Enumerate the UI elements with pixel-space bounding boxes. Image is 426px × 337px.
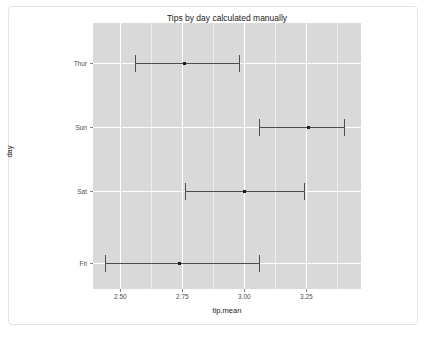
x-tick-mark bbox=[244, 289, 245, 292]
plot-panel bbox=[93, 23, 361, 289]
errorbar-cap bbox=[259, 119, 260, 136]
y-tick-mark bbox=[90, 63, 93, 64]
errorbar-line bbox=[259, 127, 343, 128]
x-tick-label: 2.50 bbox=[114, 293, 127, 300]
data-point-marker bbox=[178, 262, 181, 265]
errorbar-cap bbox=[344, 119, 345, 136]
errorbar-line bbox=[135, 63, 239, 64]
x-tick-mark bbox=[120, 289, 121, 292]
errorbar-cap bbox=[105, 255, 106, 272]
x-axis-title: tip.mean bbox=[93, 306, 361, 315]
errorbar-cap bbox=[135, 55, 136, 72]
y-tick-mark bbox=[90, 191, 93, 192]
errorbar-cap bbox=[239, 55, 240, 72]
errorbar-line bbox=[105, 263, 259, 264]
data-point-marker bbox=[183, 62, 186, 65]
y-tick-label: Fri bbox=[65, 260, 87, 267]
errorbar-cap bbox=[259, 255, 260, 272]
x-tick-mark bbox=[306, 289, 307, 292]
x-tick-label: 3.00 bbox=[238, 293, 251, 300]
errorbar-cap bbox=[304, 183, 305, 200]
chart-title: Tips by day calculated manually bbox=[93, 13, 361, 23]
y-axis-title: day bbox=[5, 145, 14, 157]
x-tick-label: 3.25 bbox=[300, 293, 313, 300]
y-tick-label: Sun bbox=[65, 124, 87, 131]
y-tick-mark bbox=[90, 127, 93, 128]
data-point-marker bbox=[243, 190, 246, 193]
errorbar-cap bbox=[185, 183, 186, 200]
y-tick-label: Thur bbox=[65, 60, 87, 67]
figure-card: Tips by day calculated manually 2.502.75… bbox=[8, 6, 418, 325]
y-tick-label: Sat bbox=[65, 188, 87, 195]
data-point-marker bbox=[307, 126, 310, 129]
x-tick-mark bbox=[182, 289, 183, 292]
x-tick-label: 2.75 bbox=[176, 293, 189, 300]
y-tick-mark bbox=[90, 263, 93, 264]
